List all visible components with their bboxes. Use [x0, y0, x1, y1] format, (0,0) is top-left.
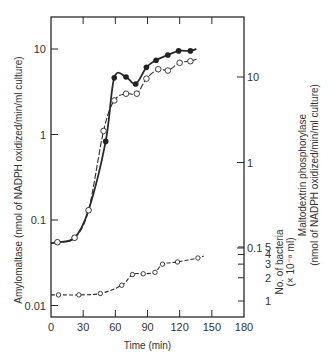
y-left-tick-label: 1	[40, 129, 46, 141]
x-axis-title: Time (min)	[124, 340, 171, 351]
bacteria-tick-label: 5	[265, 241, 271, 253]
y-right-tick-label: 1	[247, 157, 253, 169]
open-data-point	[160, 262, 164, 266]
filled-data-point	[103, 139, 109, 145]
x-tick-label: 60	[109, 321, 121, 333]
x-tick-label: 180	[235, 321, 253, 333]
bacteria-tick-label: 2	[265, 272, 271, 284]
x-tick-label: 0	[48, 321, 54, 333]
open-data-point	[141, 272, 145, 276]
series-line	[51, 59, 196, 243]
open-data-point	[123, 91, 129, 97]
y-left-axis-title: Amylomaltase (nmol of NADPH oxidized/min…	[13, 56, 24, 303]
open-data-point	[86, 207, 92, 213]
chart: 0306090120150180Time (min)0.010.11100.11…	[0, 0, 332, 354]
open-data-point	[55, 239, 61, 245]
plot-axes	[51, 17, 244, 317]
y-left-tick-label: 0.1	[31, 214, 46, 226]
filled-data-point	[123, 74, 129, 80]
plot-frame	[51, 17, 244, 317]
open-data-point	[101, 128, 107, 134]
y-right-axis-title: Maltodextrin phosphorylase(nmol of NADPH…	[297, 84, 320, 266]
filled-data-point	[176, 48, 182, 54]
open-data-point	[175, 260, 179, 264]
open-data-point	[72, 235, 78, 241]
open-data-point	[196, 256, 200, 260]
open-data-point	[98, 291, 102, 295]
filled-data-point	[153, 57, 159, 63]
open-data-point	[120, 283, 124, 287]
filled-data-point	[188, 48, 194, 54]
filled-data-point	[165, 52, 171, 58]
open-data-point	[155, 66, 161, 72]
open-data-point	[77, 293, 81, 297]
open-data-point	[188, 58, 194, 64]
open-data-point	[165, 68, 171, 74]
y-left-tick-label: 0.01	[25, 300, 46, 312]
x-tick-label: 90	[141, 321, 153, 333]
filled-data-point	[133, 81, 139, 87]
open-data-point	[134, 91, 140, 97]
plot-series	[51, 48, 204, 297]
bacteria-axis-title: No. of bacteria(× 10⁻⁸ ml)	[274, 229, 296, 294]
y-right-tick-label: 0.1	[247, 242, 262, 254]
filled-data-point	[144, 65, 150, 71]
bacteria-tick-label: 1	[265, 295, 271, 307]
x-tick-label: 150	[203, 321, 221, 333]
open-data-point	[144, 76, 150, 82]
filled-data-point	[111, 75, 117, 81]
x-tick-label: 120	[170, 321, 188, 333]
open-data-point	[153, 270, 157, 274]
open-data-point	[111, 98, 117, 104]
y-right-tick-label: 10	[247, 71, 259, 83]
open-data-point	[130, 272, 134, 276]
x-tick-label: 30	[77, 321, 89, 333]
axis-labels: 0306090120150180Time (min)0.010.11100.11…	[13, 43, 320, 351]
y-left-tick-label: 10	[34, 43, 46, 55]
open-data-point	[56, 293, 60, 297]
series-line	[51, 256, 204, 295]
open-data-point	[177, 60, 183, 66]
